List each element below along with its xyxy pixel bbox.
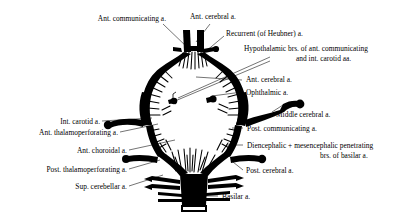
post-cerebral-left-stump	[122, 155, 130, 163]
label-ant-thalamoperforating-a: Ant. thalamoperforating a.	[4, 128, 118, 137]
label-post-thalamoperforating-a: Post. thalamoperforating a.	[2, 165, 127, 174]
post-cerebral-right-stump	[258, 155, 266, 163]
label-ant-communicating-a: Ant. communicating a.	[88, 14, 166, 23]
label-hypothalamic-brs-line2: and int. carotid aa.	[296, 54, 351, 63]
pontine-left-b	[158, 199, 182, 202]
label-diencephalic-line2: brs. of basilar a.	[320, 151, 368, 160]
label-recurrent-of-heubner-a: Recurrent (of Heubner) a.	[226, 29, 303, 38]
ant-communicating-artery	[188, 46, 200, 51]
leader-post-cerebral	[233, 162, 243, 170]
label-post-cerebral-a: Post. cerebral a.	[246, 166, 294, 175]
sup-cerebellar-right-upper	[208, 175, 236, 183]
recurrent-heubner-bulb	[213, 46, 219, 52]
label-ant-cerebral-a-top: Ant. cerebral a.	[190, 12, 236, 21]
label-diencephalic-line1: Diencephalic + mesencephalic penetrating	[247, 141, 373, 150]
label-ophthalmic-a: Ophthalmic a.	[246, 88, 288, 97]
middle-cerebral-right-stump	[296, 100, 305, 109]
basilar-artery	[180, 174, 208, 205]
pontine-left-a	[158, 192, 182, 197]
label-int-carotid-a: Int. carotid a.	[22, 117, 100, 126]
post-cerebral-right	[230, 155, 260, 163]
sup-cerebellar-left-upper	[152, 176, 180, 184]
anatomical-figure-circle-of-willis: Ant. communicating a. Ant. cerebral a. R…	[0, 0, 410, 218]
basilar-cut-end	[181, 205, 207, 212]
label-ant-cerebral-a-right: Ant. cerebral a.	[246, 75, 292, 84]
post-cerebral-left	[128, 155, 158, 163]
recurrent-heubner-left-stub	[173, 47, 182, 52]
sup-cerebellar-right-tip-a	[236, 175, 244, 181]
label-sup-cerebellar-a: Sup. cerebellar a.	[50, 182, 127, 191]
sup-cerebellar-left-lower	[152, 184, 180, 190]
label-hypothalamic-brs-line1: Hypothalamic brs. of ant. communicating	[244, 44, 368, 53]
label-middle-cerebral-a: Middle cerebral a.	[276, 110, 330, 119]
sup-cerebellar-left-tip-b	[144, 184, 152, 190]
label-basilar-a: Basilar a.	[222, 192, 250, 201]
sup-cerebellar-right-lower	[208, 183, 236, 189]
sup-cerebellar-right-tip-b	[236, 183, 244, 189]
sup-cerebellar-left-tip-a	[144, 176, 152, 182]
label-post-communicating-a: Post. communicating a.	[247, 124, 317, 133]
label-ant-choroidal-a: Ant. choroidal a.	[44, 146, 127, 155]
